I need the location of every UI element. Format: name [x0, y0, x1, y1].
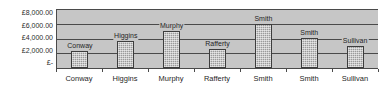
- x-axis-tick-label: Rafferty: [194, 74, 240, 88]
- bar-data-label: Smith: [253, 15, 273, 23]
- x-axis-tick-mark: [286, 69, 287, 72]
- x-axis-ticks: [56, 69, 378, 73]
- bar-data-label: Rafferty: [204, 40, 230, 48]
- bar[interactable]: [347, 46, 364, 68]
- x-axis-tick-mark: [56, 69, 57, 72]
- plot-area: Conway Higgins Murphy Rafferty Smith Smi…: [56, 9, 378, 69]
- bar[interactable]: [209, 49, 226, 68]
- bar-slot: Rafferty: [195, 9, 241, 68]
- x-axis-tick-mark: [194, 69, 195, 72]
- x-axis-tick-label: Smith: [240, 74, 286, 88]
- y-axis-tick-label: £4,000.00: [0, 34, 53, 41]
- bar-data-label: Smith: [299, 29, 319, 37]
- x-axis: Conway Higgins Murphy Rafferty Smith Smi…: [56, 74, 378, 88]
- bar-slot: Murphy: [149, 9, 195, 68]
- bar[interactable]: [71, 51, 88, 68]
- x-axis-tick-mark: [148, 69, 149, 72]
- bar-series: Conway Higgins Murphy Rafferty Smith Smi…: [57, 9, 378, 68]
- bar-slot: Sullivan: [332, 9, 378, 68]
- bar[interactable]: [301, 38, 318, 68]
- y-axis-tick-label: £-: [0, 59, 53, 66]
- bar-data-label: Sullivan: [342, 37, 369, 45]
- bar-data-label: Higgins: [113, 32, 138, 40]
- x-axis-tick-label: Smith: [286, 74, 332, 88]
- x-axis-tick-mark: [240, 69, 241, 72]
- x-axis-tick-label: Conway: [56, 74, 102, 88]
- x-axis-tick-label: Sullivan: [332, 74, 378, 88]
- bar-slot: Smith: [240, 9, 286, 68]
- x-axis-tick-mark: [378, 69, 379, 72]
- bar-chart: £8,000.00 £6,000.00 £4,000.00 £2,000.00 …: [0, 0, 388, 111]
- x-axis-tick-mark: [332, 69, 333, 72]
- bar-slot: Smith: [286, 9, 332, 68]
- y-axis-tick-label: £8,000.00: [0, 9, 53, 16]
- y-axis: £8,000.00 £6,000.00 £4,000.00 £2,000.00 …: [0, 0, 53, 111]
- bar-data-label: Murphy: [159, 22, 184, 30]
- bar[interactable]: [117, 41, 134, 68]
- bar-data-label: Conway: [66, 42, 93, 50]
- bar-slot: Higgins: [103, 9, 149, 68]
- y-axis-tick-label: £2,000.00: [0, 47, 53, 54]
- x-axis-tick-label: Murphy: [148, 74, 194, 88]
- x-axis-tick-label: Higgins: [102, 74, 148, 88]
- x-axis-tick-mark: [102, 69, 103, 72]
- bar[interactable]: [163, 31, 180, 68]
- bar-slot: Conway: [57, 9, 103, 68]
- bar[interactable]: [255, 24, 272, 68]
- y-axis-tick-label: £6,000.00: [0, 22, 53, 29]
